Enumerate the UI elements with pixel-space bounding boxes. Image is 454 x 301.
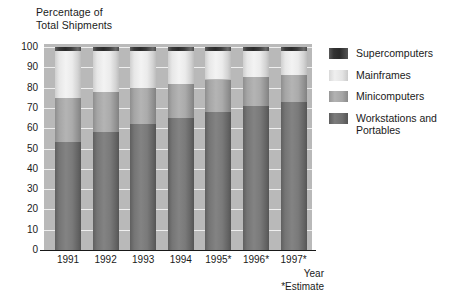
legend-swatch-main-icon: [329, 70, 348, 81]
bar-segment-minicomputers: [168, 84, 194, 119]
bar-1992[interactable]: [93, 44, 119, 250]
legend-item-mini[interactable]: Minicomputers: [329, 90, 453, 103]
legend-label-work: Workstations and Portables: [356, 112, 437, 137]
y-tick-30: 30: [8, 184, 38, 194]
bar-1994[interactable]: [168, 44, 194, 250]
bar-segment-supercomputers: [281, 47, 307, 51]
y-tick-0: 0: [8, 245, 38, 255]
bar-segment-minicomputers: [281, 75, 307, 101]
bar-1993[interactable]: [130, 44, 156, 250]
y-tick-70: 70: [8, 103, 38, 113]
bar-segment-mainframes: [168, 51, 194, 83]
legend-swatch-super-icon: [329, 48, 348, 59]
bar-segment-mainframes: [205, 51, 231, 79]
bar-segment-minicomputers: [55, 98, 81, 143]
y-tick-50: 50: [8, 144, 38, 154]
y-tick-60: 60: [8, 123, 38, 133]
bar-segment-supercomputers: [205, 47, 231, 51]
y-tickmark-0: [40, 250, 44, 251]
y-axis-tick-labels: 0102030405060708090100: [6, 0, 38, 301]
bar-segment-mainframes: [243, 51, 269, 77]
bar-segment-supercomputers: [243, 47, 269, 51]
bar-segment-minicomputers: [130, 88, 156, 125]
bar-segment-minicomputers: [93, 92, 119, 133]
bar-segment-mainframes: [55, 51, 81, 98]
bar-1991[interactable]: [55, 44, 81, 250]
bar-segment-mainframes: [130, 51, 156, 88]
bar-segment-minicomputers: [205, 80, 231, 112]
y-tick-10: 10: [8, 225, 38, 235]
x-tick-1997: 1997*: [266, 254, 322, 265]
x-axis-title: Year: [250, 268, 324, 280]
bar-segment-workstations: [55, 142, 81, 250]
bar-segment-mainframes: [93, 51, 119, 92]
bar-segment-workstations: [205, 112, 231, 250]
y-tick-40: 40: [8, 164, 38, 174]
bar-segment-supercomputers: [93, 47, 119, 51]
bar-segment-supercomputers: [168, 47, 194, 51]
plot-area: [44, 44, 312, 250]
legend-swatch-work-icon: [329, 113, 348, 124]
bar-segment-workstations: [243, 106, 269, 250]
bar-1995[interactable]: [205, 44, 231, 250]
plot-inner: [44, 44, 312, 250]
legend-swatch-mini-icon: [329, 91, 348, 102]
legend-item-work[interactable]: Workstations and Portables: [329, 112, 453, 137]
x-axis-line: [40, 250, 316, 251]
bar-segment-workstations: [93, 132, 119, 250]
legend-label-super: Supercomputers: [356, 47, 433, 60]
legend-label-main: Mainframes: [356, 69, 411, 82]
bar-1996[interactable]: [243, 44, 269, 250]
y-tick-80: 80: [8, 83, 38, 93]
bar-1997[interactable]: [281, 44, 307, 250]
legend-item-super[interactable]: Supercomputers: [329, 47, 453, 60]
legend-label-mini: Minicomputers: [356, 90, 424, 103]
chart-legend: SupercomputersMainframesMinicomputersWor…: [329, 47, 453, 146]
y-tick-90: 90: [8, 62, 38, 72]
bar-segment-mainframes: [281, 51, 307, 75]
bar-segment-minicomputers: [243, 77, 269, 105]
bar-segment-workstations: [281, 102, 307, 250]
chart-footnote: *Estimate: [240, 281, 324, 293]
chart-root: Percentage of Total Shipments 0102030405…: [0, 0, 454, 301]
y-tick-100: 100: [8, 42, 38, 52]
y-tick-20: 20: [8, 204, 38, 214]
bar-segment-supercomputers: [55, 47, 81, 51]
bar-segment-workstations: [168, 118, 194, 250]
bar-segment-workstations: [130, 124, 156, 250]
y-axis-title: Percentage of Total Shipments: [36, 6, 112, 31]
legend-item-main[interactable]: Mainframes: [329, 69, 453, 82]
bar-segment-supercomputers: [130, 47, 156, 51]
